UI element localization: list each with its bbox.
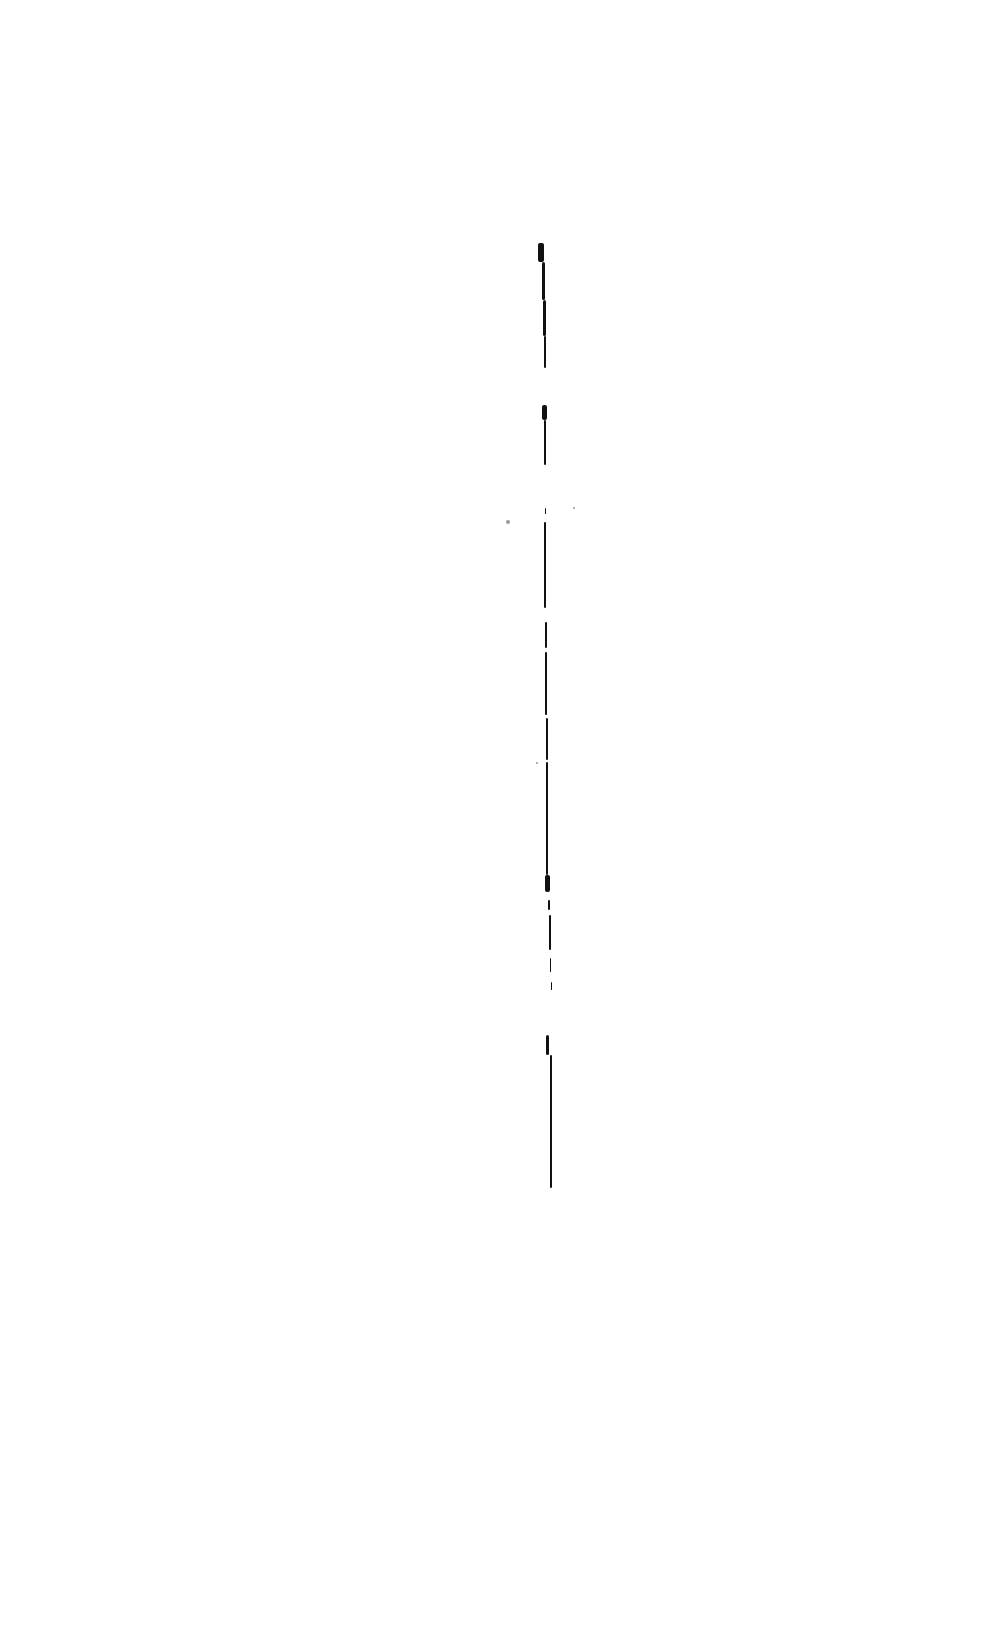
ink-line-segment [551, 982, 552, 990]
ink-line-segment [548, 900, 550, 910]
ink-speck [536, 762, 538, 764]
ink-line-segment [550, 1055, 552, 1188]
ink-line-segment [538, 243, 544, 262]
ink-line-segment [546, 762, 549, 875]
ink-line-segment [544, 336, 546, 368]
ink-line-segment [546, 1035, 549, 1055]
ink-line-segment [545, 622, 547, 648]
scanned-page [0, 0, 991, 1639]
ink-line-segment [545, 875, 550, 892]
ink-line-segment [543, 300, 546, 336]
ink-line-segment [545, 652, 547, 715]
ink-line-segment [542, 262, 545, 300]
ink-line-segment [544, 420, 546, 465]
ink-line-segment [549, 915, 551, 950]
ink-line-segment [542, 405, 547, 420]
ink-line-segment [544, 522, 547, 608]
ink-line-segment [545, 508, 546, 514]
ink-line-segment [550, 958, 551, 972]
ink-speck [506, 520, 510, 524]
ink-line-segment [546, 718, 548, 760]
ink-speck [573, 507, 575, 509]
